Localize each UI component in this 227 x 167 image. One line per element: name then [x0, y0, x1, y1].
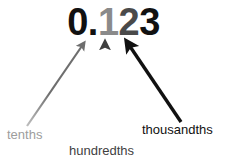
- tenths-label: tenths: [7, 128, 42, 142]
- thousandths-arrow: [127, 42, 181, 122]
- decimal-place-value-diagram: 0.123 te: [0, 0, 227, 167]
- hundredths-label: hundredths: [69, 144, 134, 158]
- thousandths-label: thousandths: [142, 123, 213, 137]
- tenths-arrow: [27, 43, 84, 126]
